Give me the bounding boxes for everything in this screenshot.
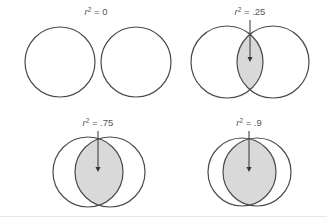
r-squared-label: r2 = .9 xyxy=(236,117,262,129)
venn-diagram-figure: r2 = 0r2 = .25r2 = .75r2 = .9 xyxy=(0,0,327,220)
circle-variable-x xyxy=(25,27,95,97)
r-squared-label: r2 = 0 xyxy=(85,6,108,18)
circle-variable-y xyxy=(101,27,171,97)
bottom-divider xyxy=(0,216,327,217)
label-value: = .75 xyxy=(89,117,113,128)
r-squared-label: r2 = .25 xyxy=(235,6,266,18)
label-value: = 0 xyxy=(91,6,107,17)
venn-panel-r2-75: r2 = .75 xyxy=(53,117,145,208)
r-squared-label: r2 = .75 xyxy=(83,117,114,129)
venn-panel-r2-25: r2 = .25 xyxy=(191,6,309,99)
label-value: = .9 xyxy=(243,117,262,128)
venn-panel-r2-0: r2 = 0 xyxy=(25,6,171,98)
venn-panel-r2-9: r2 = .9 xyxy=(208,117,291,207)
label-value: = .25 xyxy=(241,6,265,17)
